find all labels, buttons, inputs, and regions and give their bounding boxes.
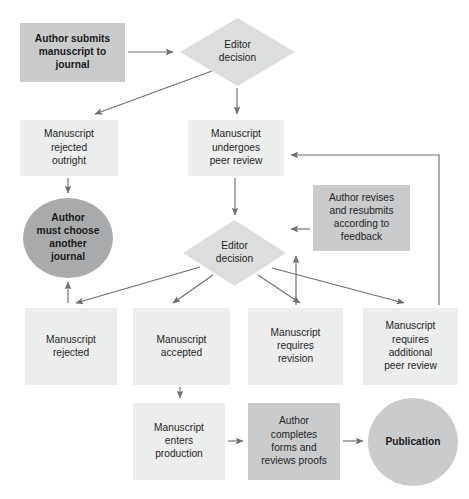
node-manuscript-accepted: Manuscriptaccepted bbox=[133, 308, 230, 385]
label-editor-decision-1-line-0: Editor bbox=[224, 39, 251, 50]
label-manuscript-enters-production-line-1: enters bbox=[165, 435, 193, 446]
label-manuscript-accepted-line-1: accepted bbox=[161, 347, 203, 358]
node-author-must-choose-another-journal: Authormust chooseanotherjournal bbox=[23, 198, 113, 278]
label-manuscript-rejected-line-0: Manuscript bbox=[46, 334, 96, 345]
flowchart-svg: Author submitsmanuscript tojournalEditor… bbox=[0, 0, 469, 499]
label-manuscript-undergoes-peer-review-line-2: peer review bbox=[210, 155, 263, 166]
label-author-completes-forms-line-2: forms and bbox=[271, 442, 317, 453]
label-author-completes-forms-line-1: completes bbox=[271, 429, 317, 440]
label-author-must-choose-another-journal-line-3: journal bbox=[50, 251, 85, 262]
label-author-submits-line-2: journal bbox=[55, 59, 90, 70]
label-editor-decision-1-line-1: decision bbox=[219, 52, 256, 63]
node-manuscript-enters-production: Manuscriptentersproduction bbox=[133, 403, 225, 480]
label-author-submits-line-0: Author submits bbox=[35, 33, 111, 44]
label-author-submits-line-1: manuscript to bbox=[39, 46, 106, 57]
label-manuscript-enters-production-line-2: production bbox=[155, 448, 203, 459]
label-editor-decision-2-line-1: decision bbox=[216, 253, 253, 264]
label-author-must-choose-another-journal-line-1: must choose bbox=[37, 225, 100, 236]
label-author-completes-forms-line-3: reviews proofs bbox=[261, 455, 327, 466]
edge-decision2-to-requires-revision bbox=[258, 275, 300, 303]
label-author-revises-resubmits-line-2: according to bbox=[334, 218, 390, 229]
edge-decision2-to-accepted bbox=[173, 275, 213, 303]
label-author-must-choose-another-journal-line-2: another bbox=[49, 238, 86, 249]
top-text-fragment bbox=[22, 0, 442, 3]
node-author-revises-resubmits: Author revisesand resubmitsaccording tof… bbox=[313, 185, 410, 251]
node-author-completes-forms: Authorcompletesforms andreviews proofs bbox=[248, 403, 340, 480]
label-manuscript-requires-revision-line-1: requires bbox=[277, 340, 314, 351]
node-editor-decision-2: Editordecision bbox=[183, 220, 286, 286]
label-manuscript-requires-additional-peer-review-line-2: additional bbox=[389, 347, 433, 358]
label-manuscript-rejected-outright-line-2: outright bbox=[52, 155, 86, 166]
label-editor-decision-2-line-0: Editor bbox=[221, 240, 248, 251]
label-publication-line-0: Publication bbox=[386, 436, 441, 447]
node-manuscript-requires-revision: Manuscriptrequiresrevision bbox=[248, 308, 343, 385]
label-manuscript-rejected-outright-line-0: Manuscript bbox=[44, 128, 94, 139]
node-manuscript-undergoes-peer-review: Manuscriptundergoespeer review bbox=[188, 120, 284, 176]
node-manuscript-requires-additional-peer-review: Manuscriptrequiresadditionalpeer review bbox=[363, 308, 458, 385]
label-manuscript-enters-production-line-0: Manuscript bbox=[154, 422, 204, 433]
label-manuscript-requires-additional-peer-review-line-0: Manuscript bbox=[386, 320, 436, 331]
label-manuscript-accepted-line-0: Manuscript bbox=[157, 334, 207, 345]
label-manuscript-requires-revision-line-0: Manuscript bbox=[271, 327, 321, 338]
label-manuscript-requires-revision-line-2: revision bbox=[278, 353, 313, 364]
node-author-submits: Author submitsmanuscript tojournal bbox=[20, 23, 125, 82]
label-author-revises-resubmits-line-3: feedback bbox=[341, 231, 383, 242]
label-author-revises-resubmits-line-1: and resubmits bbox=[330, 205, 394, 216]
node-publication: Publication bbox=[368, 398, 458, 486]
node-manuscript-rejected: Manuscriptrejected bbox=[25, 308, 117, 385]
label-manuscript-undergoes-peer-review-line-1: undergoes bbox=[212, 142, 260, 153]
node-manuscript-rejected-outright: Manuscriptrejectedoutright bbox=[20, 120, 118, 176]
flowchart-canvas: Author submitsmanuscript tojournalEditor… bbox=[0, 0, 469, 499]
label-manuscript-undergoes-peer-review-line-0: Manuscript bbox=[211, 128, 261, 139]
nodes-layer: Author submitsmanuscript tojournalEditor… bbox=[20, 18, 458, 486]
label-author-completes-forms-line-0: Author bbox=[279, 415, 310, 426]
node-editor-decision-1: Editordecision bbox=[180, 18, 295, 86]
label-manuscript-rejected-line-1: rejected bbox=[53, 347, 90, 358]
label-manuscript-rejected-outright-line-1: rejected bbox=[51, 142, 88, 153]
label-manuscript-requires-additional-peer-review-line-3: peer review bbox=[384, 360, 437, 371]
label-author-revises-resubmits-line-0: Author revises bbox=[329, 192, 394, 203]
label-author-must-choose-another-journal-line-0: Author bbox=[51, 212, 84, 223]
label-manuscript-requires-additional-peer-review-line-1: requires bbox=[392, 334, 429, 345]
